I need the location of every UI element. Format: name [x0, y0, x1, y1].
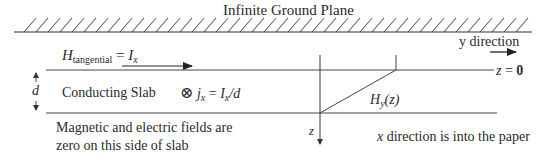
h-symbol: H	[62, 47, 73, 63]
slab-label: Conducting Slab	[62, 86, 156, 100]
j-rhs-div: /d	[229, 86, 240, 101]
j-eq: =	[205, 86, 220, 101]
d-label: d	[32, 84, 39, 98]
fields-zero-note-line1: Magnetic and electric fields are	[56, 121, 232, 135]
h-equals: =	[112, 47, 128, 63]
current-density-label: ⊗ jx = Ix/d	[180, 85, 240, 103]
ground-plane-label: Infinite Ground Plane	[223, 3, 354, 18]
into-page-icon: ⊗	[180, 84, 193, 101]
hy-arg: (z)	[385, 92, 400, 107]
x-text: direction is into the paper	[383, 129, 530, 144]
z-eq: =	[501, 63, 516, 78]
hy-h: H	[370, 92, 380, 107]
hy-label: Hy(z)	[370, 93, 399, 109]
ground-plane-hatch	[24, 18, 528, 32]
z-zero-label: z = 0	[496, 64, 523, 78]
z-axis-label: z	[309, 124, 314, 137]
h-subscript: tangential	[73, 54, 112, 65]
h-tangential-label: Htangential = Ix	[62, 48, 138, 65]
h-value-subscript: x	[133, 54, 137, 65]
y-direction-label: y direction	[459, 35, 519, 49]
x-direction-note: x direction is into the paper	[377, 130, 530, 144]
z-val: 0	[516, 63, 523, 78]
fields-zero-note-line2: zero on this side of slab	[56, 139, 189, 153]
